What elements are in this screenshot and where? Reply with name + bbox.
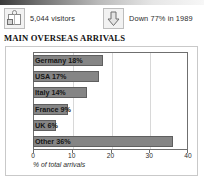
bar-row[interactable]: Italy 14% — [33, 87, 188, 98]
chart-plot-wrap: Germany 18%USA 17%Italy 14%France 9%UK 6… — [33, 52, 188, 150]
page-title: MAIN OVERSEAS ARRIVALS — [4, 33, 125, 43]
bar-label: Other 36% — [35, 137, 71, 146]
x-tick-label: 40 — [184, 152, 191, 160]
chart-x-axis-title: % of total arrivals — [33, 161, 85, 168]
top-accent-strip — [0, 0, 204, 5]
chart-bars: Germany 18%USA 17%Italy 14%France 9%UK 6… — [33, 52, 188, 150]
bar-row[interactable]: France 9% — [33, 104, 188, 115]
x-tick-label: 10 — [68, 152, 75, 160]
stat-change: Down 77% in 1989 — [103, 8, 193, 29]
bar-label: Italy 14% — [35, 88, 66, 97]
bar-row[interactable]: USA 17% — [33, 71, 188, 82]
bar-row[interactable]: Other 36% — [33, 136, 188, 147]
stats-row: 5,044 visitors Down 77% in 1989 — [0, 8, 204, 32]
bar-row[interactable]: Germany 18% — [33, 55, 188, 66]
bar-row[interactable]: UK 6% — [33, 120, 188, 131]
stat-visitors-text: 5,044 visitors — [30, 14, 75, 23]
x-tick-label: 20 — [107, 152, 114, 160]
down-arrow-icon — [103, 8, 124, 29]
bar-label: France 9% — [35, 105, 71, 114]
bar-label: Germany 18% — [35, 56, 83, 65]
stat-visitors: 5,044 visitors — [4, 8, 75, 29]
stat-change-text: Down 77% in 1989 — [129, 14, 193, 23]
bar-label: UK 6% — [35, 121, 58, 130]
bar-label: USA 17% — [35, 72, 66, 81]
x-tick-label: 30 — [146, 152, 153, 160]
suitcase-icon — [4, 8, 25, 29]
x-tick-label: 0 — [31, 152, 35, 160]
